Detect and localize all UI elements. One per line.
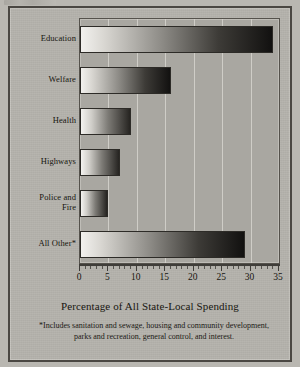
x-axis-minor-tick [198,266,199,269]
y-axis-label-line: Welfare [20,75,76,85]
y-axis-label-line: Fire [20,203,76,213]
x-axis-minor-tick [181,266,182,269]
x-axis-major-tick [221,266,222,271]
x-axis-tick-label: 20 [188,272,198,282]
x-axis-minor-tick [90,266,91,269]
x-axis-minor-tick [142,266,143,269]
x-axis-minor-tick [261,266,262,269]
plot-area-wrapper: EducationWelfareHealthHighwaysPolice and… [20,18,280,270]
x-axis-minor-tick [215,266,216,269]
bar-education [80,26,273,53]
x-axis-minor-tick [159,266,160,269]
x-axis-tick-label: 30 [245,272,255,282]
bar-police-and-fire [80,190,108,217]
chart-figure: EducationWelfareHealthHighwaysPolice and… [8,6,292,362]
x-axis-major-tick [136,266,137,271]
x-axis: 05101520253035 [79,264,280,298]
x-axis-major-tick [107,266,108,271]
x-axis-minor-tick [170,266,171,269]
x-axis-minor-tick [85,266,86,269]
x-axis-minor-tick [102,266,103,269]
y-axis-label-police-and-fire: Police andFire [20,193,76,212]
x-axis-minor-tick [119,266,120,269]
x-axis-minor-tick [210,266,211,269]
x-axis-major-tick [79,266,80,271]
x-axis-tick-label: 35 [273,272,283,282]
y-axis-category-labels: EducationWelfareHealthHighwaysPolice and… [20,18,76,264]
bar-highways [80,149,120,176]
x-axis-major-tick [278,266,279,271]
x-axis-tick-label: 0 [77,272,82,282]
x-axis-minor-tick [96,266,97,269]
x-axis-major-tick [164,266,165,271]
bar-all-other [80,231,245,258]
x-axis-minor-tick [238,266,239,269]
bar-welfare [80,67,171,94]
plot-area [79,18,280,264]
y-axis-label-health: Health [20,116,76,126]
gridline [137,19,138,263]
x-axis-minor-tick [233,266,234,269]
x-axis-tick-label: 15 [160,272,170,282]
x-axis-tick-label: 25 [216,272,226,282]
x-axis-minor-tick [187,266,188,269]
x-axis-major-tick [250,266,251,271]
y-axis-label-line: Education [20,34,76,44]
x-axis-major-tick [193,266,194,271]
y-axis-label-line: Highways [20,157,76,167]
x-axis-minor-tick [153,266,154,269]
bar-health [80,108,131,135]
x-axis-tick-label: 5 [105,272,110,282]
footnote-text: *Includes sanitation and sewage, housing… [32,321,276,342]
x-axis-minor-tick [255,266,256,269]
x-axis-minor-tick [147,266,148,269]
gridline [165,19,166,263]
x-axis-minor-tick [244,266,245,269]
y-axis-label-welfare: Welfare [20,75,76,85]
y-axis-label-education: Education [20,34,76,44]
clipped-caption-fragment [4,0,56,5]
x-axis-minor-tick [130,266,131,269]
gridline [194,19,195,263]
y-axis-label-line: Health [20,116,76,126]
x-axis-minor-tick [176,266,177,269]
x-axis-tick-label: 10 [131,272,141,282]
y-axis-label-all-other: All Other* [20,239,76,249]
y-axis-label-line: All Other* [20,239,76,249]
x-axis-minor-tick [124,266,125,269]
x-axis-minor-tick [113,266,114,269]
x-axis-minor-tick [272,266,273,269]
gridline [222,19,223,263]
x-axis-minor-tick [267,266,268,269]
x-axis-minor-tick [204,266,205,269]
x-axis-title: Percentage of All State-Local Spending [20,300,280,312]
gridline [251,19,252,263]
y-axis-label-highways: Highways [20,157,76,167]
gridline [108,19,109,263]
x-axis-minor-tick [227,266,228,269]
